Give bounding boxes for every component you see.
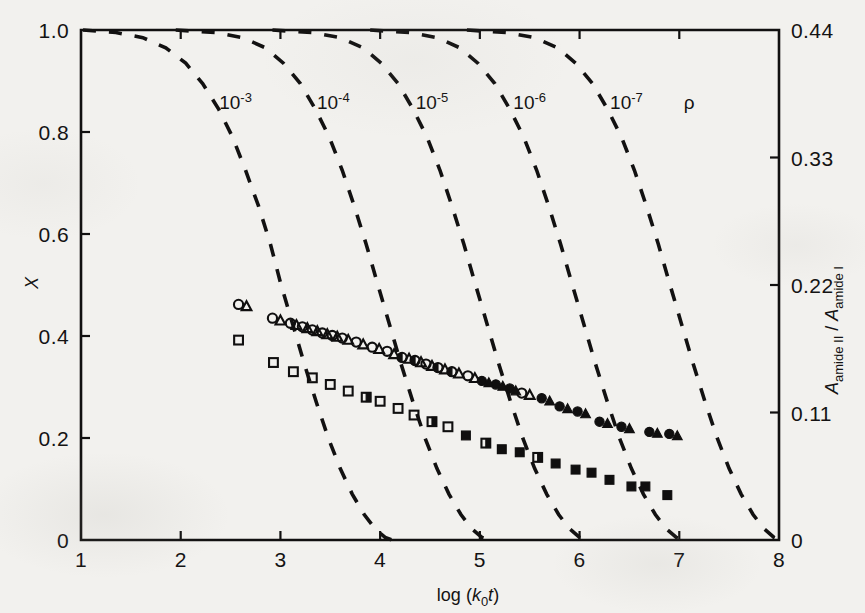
marker-square [551, 459, 560, 468]
y-tick-label-left: 0.4 [39, 325, 69, 348]
curve-label-5: 10-7 [610, 90, 643, 113]
y-tick-label-left: 0.2 [39, 427, 69, 450]
marker-square [627, 482, 636, 491]
y-tick-label-left: 0.8 [39, 121, 69, 144]
x-tick-label: 4 [374, 548, 386, 571]
marker-square [432, 417, 436, 426]
marker-square [376, 397, 385, 406]
marker-square [234, 336, 243, 345]
curve-label-3: 10-5 [416, 90, 449, 113]
marker-square [587, 468, 596, 477]
x-tick-label: 8 [773, 548, 785, 571]
marker-square [394, 404, 403, 413]
y-tick-label-right: 0.33 [791, 147, 833, 170]
marker-circle [268, 314, 277, 323]
curve-label-4: 10-6 [513, 90, 546, 113]
marker-triangle [343, 335, 353, 344]
y-tick-label-right: 0.11 [791, 402, 832, 425]
axis-titles: XAamide II / Aamide Ilog (k0t) [22, 266, 846, 609]
figure-container: 1234567800.20.40.60.81.000.110.220.330.4… [0, 0, 865, 613]
data-markers [234, 300, 682, 500]
marker-square [641, 482, 650, 491]
marker-square [326, 380, 335, 389]
marker-square [289, 367, 298, 376]
x-axis-title: log (k0t) [437, 585, 499, 609]
marker-square [461, 431, 470, 440]
marker-circle [555, 402, 564, 411]
marker-square [605, 475, 614, 484]
x-tick-label: 2 [175, 548, 187, 571]
marker-circle [645, 427, 654, 436]
marker-square [344, 387, 353, 396]
marker-square [497, 445, 506, 454]
marker-circle [595, 417, 604, 426]
x-tick-label: 1 [75, 548, 87, 571]
marker-circle [617, 422, 626, 431]
marker-circle [573, 407, 582, 416]
x-tick-label: 5 [474, 548, 486, 571]
y-tick-label-right: 0 [791, 529, 803, 552]
marker-circle [537, 394, 546, 403]
y-axis-title-left: X [22, 276, 42, 290]
marker-square [269, 358, 278, 367]
marker-square [663, 491, 672, 500]
y-tick-label-left: 1.0 [39, 19, 69, 42]
marker-square [571, 465, 580, 474]
curve-label-6: ρ [684, 92, 695, 113]
x-tick-label: 6 [574, 548, 586, 571]
marker-square [486, 439, 490, 448]
curve-label-1: 10-3 [219, 90, 252, 113]
chart-svg: 1234567800.20.40.60.81.000.110.220.330.4… [0, 0, 865, 613]
marker-square [366, 393, 370, 402]
marker-circle [665, 429, 674, 438]
y-tick-label-right: 0.44 [791, 19, 833, 42]
y-tick-label-left: 0 [57, 529, 69, 552]
marker-square [538, 453, 542, 462]
curve-label-2: 10-4 [317, 90, 350, 113]
x-tick-label: 3 [274, 548, 286, 571]
marker-triangle [427, 361, 437, 370]
y-tick-label-right: 0.22 [791, 274, 833, 297]
marker-circle [234, 300, 243, 309]
x-tick-label: 7 [673, 548, 685, 571]
marker-square [515, 448, 524, 457]
curve-annotations: 10-310-410-510-610-7ρ [219, 90, 695, 113]
marker-square [444, 422, 453, 431]
y-tick-label-left: 0.6 [39, 223, 69, 246]
